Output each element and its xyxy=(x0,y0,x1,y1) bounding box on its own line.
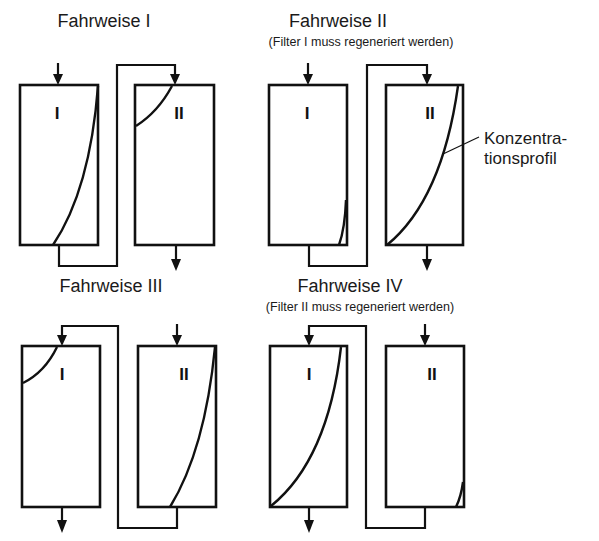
filter-label: I xyxy=(55,104,60,123)
inlet-arrow-icon xyxy=(172,335,182,346)
filter-label: II xyxy=(425,104,434,123)
panel-title: Fahrweise IV xyxy=(297,276,402,296)
inlet-arrow-icon xyxy=(53,74,63,85)
filter-label: I xyxy=(60,365,65,384)
annotation-line-1: Konzentra- xyxy=(484,129,567,148)
filter-label: II xyxy=(179,365,188,384)
outlet-arrow-icon xyxy=(57,520,67,533)
panel-subtitle: (Filter I muss regeneriert werden) xyxy=(269,35,454,49)
connector-arrow-icon xyxy=(422,74,432,85)
filter-column-2 xyxy=(386,346,464,507)
annotation-line-2: tionsprofil xyxy=(484,149,557,168)
connector-arrow-icon xyxy=(304,335,314,346)
filter-operating-modes-diagram: Fahrweise I I II Fahrweise II (Filter I … xyxy=(0,0,599,541)
connector-arrow-icon xyxy=(170,74,180,85)
panel-title: Fahrweise II xyxy=(289,11,387,31)
panel-fahrweise-3: Fahrweise III I II xyxy=(22,276,216,533)
outlet-arrow-icon xyxy=(304,520,314,533)
inlet-arrow-icon xyxy=(420,335,430,346)
filter-label: I xyxy=(305,104,310,123)
filter-label: II xyxy=(427,365,436,384)
panel-title: Fahrweise I xyxy=(57,11,150,31)
filter-column-2 xyxy=(138,346,216,507)
panel-subtitle: (Filter II muss regeneriert werden) xyxy=(266,300,454,314)
panel-fahrweise-4: Fahrweise IV (Filter II muss regeneriert… xyxy=(266,276,464,533)
filter-label: II xyxy=(174,104,183,123)
inlet-arrow-icon xyxy=(303,74,313,85)
outlet-arrow-icon xyxy=(422,259,432,271)
filter-label: I xyxy=(307,365,312,384)
outlet-arrow-icon xyxy=(171,259,181,271)
panel-title: Fahrweise III xyxy=(59,276,162,296)
panel-fahrweise-2: Fahrweise II (Filter I muss regeneriert … xyxy=(269,11,568,271)
connector-arrow-icon xyxy=(57,335,67,346)
panel-fahrweise-1: Fahrweise I I II xyxy=(20,11,214,271)
